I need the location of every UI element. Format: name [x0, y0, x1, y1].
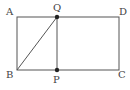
label-c: C — [118, 69, 126, 80]
rectangle-abcd — [17, 17, 119, 70]
point-q-dot — [55, 15, 59, 19]
label-d: D — [119, 6, 127, 17]
segment-bq — [17, 17, 57, 70]
label-q: Q — [53, 2, 61, 13]
label-a: A — [5, 6, 14, 17]
geometry-diagram: A Q D B P C — [0, 0, 130, 90]
label-b: B — [6, 69, 13, 80]
point-p-dot — [55, 68, 59, 72]
label-p: P — [53, 74, 60, 85]
